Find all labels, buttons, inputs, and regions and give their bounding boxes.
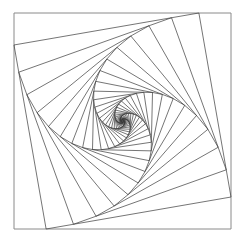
nested-square — [14, 13, 231, 229]
nested-square — [122, 120, 124, 122]
nested-square — [27, 26, 218, 216]
nested-square — [83, 81, 163, 160]
nested-square — [97, 95, 148, 146]
whirl-diagram — [0, 0, 245, 242]
nested-square — [37, 36, 208, 206]
nested-square — [19, 18, 227, 225]
nested-square — [94, 92, 152, 149]
nested-square — [99, 98, 145, 144]
nested-square — [72, 71, 173, 172]
nested-square — [60, 59, 184, 183]
outer-square — [14, 13, 231, 229]
nested-square — [49, 47, 197, 194]
nested-squares-spiral — [0, 0, 245, 242]
